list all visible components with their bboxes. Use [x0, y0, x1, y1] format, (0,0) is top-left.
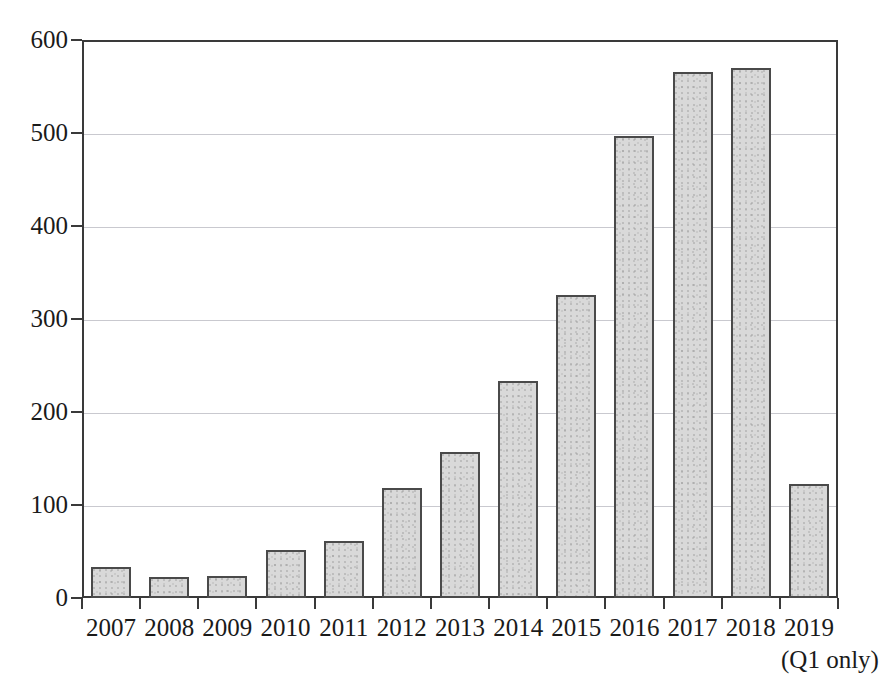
x-tick-label-2018: 2018 — [722, 614, 780, 642]
x-tick-4 — [314, 598, 316, 609]
x-tick-7 — [488, 598, 490, 609]
bar-2012 — [382, 488, 422, 598]
y-tick-200 — [71, 411, 82, 413]
y-tick-500 — [71, 132, 82, 134]
y-tick-300 — [71, 318, 82, 320]
x-tick-label-2014: 2014 — [489, 614, 547, 642]
x-tick-label-2012: 2012 — [373, 614, 431, 642]
x-tick-13 — [837, 598, 839, 609]
x-tick-label-2009: 2009 — [198, 614, 256, 642]
y-tick-label-200: 200 — [6, 399, 68, 424]
x-tick-label-2008: 2008 — [140, 614, 198, 642]
bar-2017 — [673, 72, 713, 598]
x-tick-12 — [779, 598, 781, 609]
bars-layer — [82, 40, 838, 598]
bar-2015 — [556, 295, 596, 598]
q1-only-annotation: (Q1 only) — [749, 646, 879, 674]
x-tick-1 — [139, 598, 141, 609]
bar-2016 — [614, 136, 654, 598]
x-tick-label-2007: 2007 — [82, 614, 140, 642]
y-tick-label-300: 300 — [6, 306, 68, 331]
x-tick-10 — [663, 598, 665, 609]
bar-2011 — [324, 541, 364, 598]
bar-2009 — [207, 576, 247, 598]
x-tick-label-2017: 2017 — [664, 614, 722, 642]
y-tick-600 — [71, 39, 82, 41]
y-tick-label-500: 500 — [6, 120, 68, 145]
y-tick-400 — [71, 225, 82, 227]
y-axis-labels: 0100200300400500600 — [0, 0, 68, 25]
y-tick-label-400: 400 — [6, 213, 68, 238]
x-tick-6 — [430, 598, 432, 609]
x-tick-2 — [197, 598, 199, 609]
x-tick-3 — [255, 598, 257, 609]
x-tick-8 — [546, 598, 548, 609]
y-tick-100 — [71, 504, 82, 506]
y-tick-label-0: 0 — [6, 585, 68, 610]
bar-2014 — [498, 381, 538, 598]
x-tick-11 — [721, 598, 723, 609]
bar-chart: 0100200300400500600 20072008200920102011… — [0, 0, 881, 696]
x-tick-label-2019: 2019 — [780, 614, 838, 642]
x-tick-label-2010: 2010 — [256, 614, 314, 642]
x-tick-label-2011: 2011 — [315, 614, 373, 642]
x-tick-label-2015: 2015 — [547, 614, 605, 642]
x-tick-label-2013: 2013 — [431, 614, 489, 642]
x-tick-9 — [604, 598, 606, 609]
bar-2018 — [731, 68, 771, 598]
x-tick-5 — [372, 598, 374, 609]
bar-2013 — [440, 452, 480, 598]
y-tick-label-100: 100 — [6, 492, 68, 517]
bar-2008 — [149, 577, 189, 598]
bar-2010 — [266, 550, 306, 598]
bar-2007 — [91, 567, 131, 598]
y-tick-label-600: 600 — [6, 27, 68, 52]
x-tick-label-2016: 2016 — [605, 614, 663, 642]
bar-2019 — [789, 484, 829, 598]
x-tick-0 — [81, 598, 83, 609]
